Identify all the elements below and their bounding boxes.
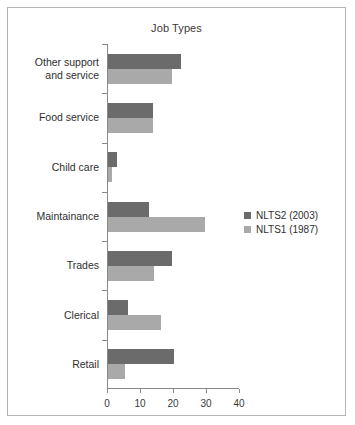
bar [108,315,161,330]
plot-area: 010203040 [107,44,239,389]
bar [108,54,181,69]
y-axis-tick [102,192,107,193]
category-label: Child care [0,161,99,174]
x-axis-tick [206,389,207,393]
x-axis-tick-label: 30 [200,398,211,409]
legend-label: NLTS1 (1987) [256,224,318,235]
bar [108,202,149,217]
x-axis-tick-label: 10 [134,398,145,409]
x-axis-tick [173,389,174,393]
bar [108,217,205,232]
category-label: Maintainance [0,210,99,223]
x-axis-tick-label: 40 [233,398,244,409]
x-axis-tick [140,389,141,393]
y-axis-tick [102,241,107,242]
bar [108,69,172,84]
y-axis-tick [102,340,107,341]
legend-swatch-icon [244,226,251,233]
category-label: Retail [0,358,99,371]
x-axis-tick [107,389,108,393]
legend-swatch-icon [244,212,251,219]
bar [108,118,153,133]
bar [108,152,117,167]
y-axis-tick [102,290,107,291]
bar [108,300,128,315]
chart-frame: Job Types 010203040 Other support and se… [7,7,346,416]
legend-label: NLTS2 (2003) [256,210,318,221]
y-axis-tick [102,93,107,94]
bar [108,349,174,364]
x-axis-tick-label: 20 [167,398,178,409]
y-axis-tick [102,143,107,144]
legend-item[interactable]: NLTS2 (2003) [244,210,318,221]
bar [108,364,125,379]
chart-legend: NLTS2 (2003)NLTS1 (1987) [244,210,318,238]
category-label: Trades [0,259,99,272]
bar [108,167,112,182]
bar [108,103,153,118]
chart-title: Job Types [8,22,345,34]
x-axis-tick-label: 0 [104,398,110,409]
y-axis-tick [102,44,107,45]
x-axis-tick [239,389,240,393]
category-label: Other support and service [0,56,99,82]
category-label: Food service [0,111,99,124]
bar [108,266,154,281]
legend-item[interactable]: NLTS1 (1987) [244,224,318,235]
bar [108,251,172,266]
category-label: Clerical [0,309,99,322]
